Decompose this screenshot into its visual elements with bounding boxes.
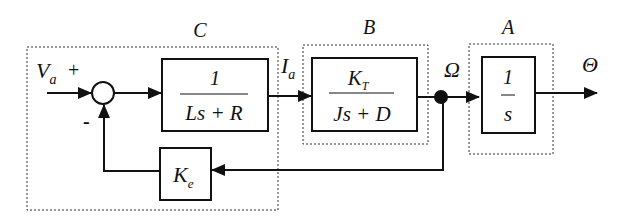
electrical-numerator: 1 bbox=[210, 67, 220, 89]
input-label-va: Va bbox=[36, 58, 56, 87]
group-c-label: C bbox=[193, 19, 207, 41]
minus-sign: - bbox=[83, 110, 90, 132]
speed-label-omega: Ω bbox=[444, 57, 460, 82]
plus-sign: + bbox=[68, 59, 79, 81]
group-a-label: A bbox=[500, 16, 515, 38]
group-b-label: B bbox=[363, 16, 375, 38]
integrator-denominator: s bbox=[504, 102, 512, 126]
block-diagram: C B A Va + - 1 Ls + R Ia KT Js + D Ω 1 s… bbox=[0, 0, 619, 218]
mechanical-denominator: Js + D bbox=[333, 102, 390, 126]
integrator-numerator: 1 bbox=[503, 66, 513, 88]
feedback-line-to-sum bbox=[104, 105, 160, 171]
output-label-theta: Θ bbox=[582, 52, 598, 77]
pickoff-point bbox=[434, 90, 448, 104]
electrical-denominator: Ls + R bbox=[184, 101, 243, 125]
summing-junction bbox=[92, 82, 114, 104]
current-label-ia: Ia bbox=[280, 53, 295, 82]
